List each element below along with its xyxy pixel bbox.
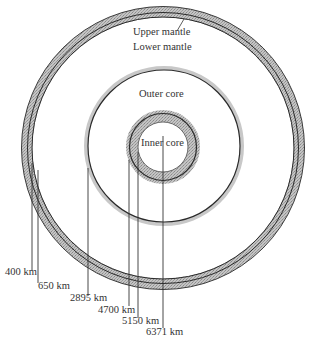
- depth-5150km: 5150 km: [122, 315, 159, 326]
- upper-mantle-label: Upper mantle: [133, 26, 191, 37]
- depth-400km: 400 km: [5, 266, 37, 277]
- depth-4700km: 4700 km: [98, 304, 135, 315]
- depth-650km: 650 km: [38, 280, 70, 291]
- lower-mantle-label: Lower mantle: [133, 41, 192, 52]
- earth-interior-diagram: Upper mantle Lower mantle Outer core Inn…: [0, 0, 309, 340]
- outer-core-label: Outer core: [139, 88, 184, 99]
- depth-6371km: 6371 km: [146, 326, 183, 337]
- depth-2895km: 2895 km: [70, 292, 107, 303]
